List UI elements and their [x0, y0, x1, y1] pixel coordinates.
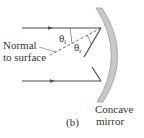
theta-i-subscript: i: [64, 38, 66, 46]
mirror-label-line2: mirror: [96, 116, 124, 127]
upper-ray-arrowhead-icon: [48, 26, 53, 29]
theta-reflected-label: θr: [74, 42, 82, 57]
theta-incident-label: θi: [59, 33, 66, 48]
mirror-label-line1: Concave: [95, 104, 133, 115]
concave-mirror: [96, 8, 118, 102]
normal-label-line2: to surface: [3, 52, 46, 63]
theta-r-subscript: r: [79, 47, 81, 55]
incident-angle-arc: [70, 28, 72, 44]
lower-ray-arrowhead-icon: [50, 79, 55, 82]
lower-reflected-ray: [92, 67, 101, 81]
concave-mirror-diagram: Normal to surface θi θr Concave mirror (…: [0, 0, 144, 138]
reflected-angle-arc: [87, 35, 91, 44]
panel-label: (b): [66, 117, 79, 128]
normal-label-line1: Normal: [3, 40, 37, 51]
upper-reflected-ray: [84, 28, 101, 57]
